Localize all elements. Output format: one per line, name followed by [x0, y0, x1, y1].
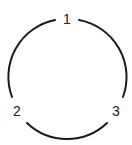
edge-2-3 [27, 123, 107, 139]
cycle-diagram: 1 2 3 [0, 0, 132, 145]
node-3-label: 3 [112, 103, 120, 119]
edge-1-2 [8, 20, 55, 97]
node-1-label: 1 [63, 11, 71, 27]
edge-3-1 [79, 20, 127, 97]
node-2-label: 2 [13, 103, 21, 119]
